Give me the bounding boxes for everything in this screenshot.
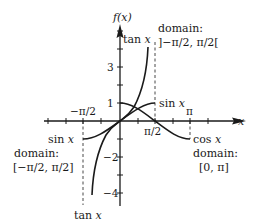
label-sin-left: sin x (48, 133, 75, 146)
diagram-canvas: f(x) x −π/2 π/2 π 1 3 −2 −4 tan x sin x … (0, 0, 256, 223)
label-tan-top: tan x (123, 33, 152, 46)
label-cos-right: cos x (193, 133, 222, 146)
tan-domain-value: ]−π/2, π/2[ (158, 36, 219, 49)
trig-function-diagram: f(x) x −π/2 π/2 π 1 3 −2 −4 tan x sin x … (0, 0, 256, 223)
sin-domain-value: [−π/2, π/2] (13, 161, 74, 174)
sin-domain-title: domain: (14, 147, 59, 160)
tan-domain-title: domain: (158, 22, 203, 35)
tick-label-three: 3 (107, 61, 114, 73)
cos-domain-value: [0, π] (199, 161, 229, 174)
tick-label-half-pi: π/2 (144, 125, 161, 137)
tick-label-neg-half-pi: −π/2 (70, 105, 96, 117)
tick-label-neg-two: −2 (103, 151, 118, 163)
tick-label-one: 1 (107, 97, 114, 109)
tick-label-pi: π (186, 105, 193, 117)
label-tan-bottom: tan x (74, 209, 103, 222)
label-sin-right: sin x (159, 97, 186, 110)
y-axis-label: f(x) (112, 11, 132, 24)
x-axis-label: x (238, 115, 245, 128)
tick-label-neg-four: −4 (103, 187, 119, 199)
cos-domain-title: domain: (193, 147, 238, 160)
